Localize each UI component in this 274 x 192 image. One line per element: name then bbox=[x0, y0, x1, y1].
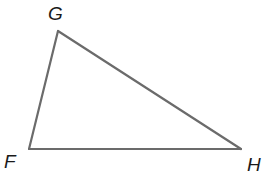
side-hg bbox=[58, 31, 241, 149]
triangle-diagram: G F H bbox=[0, 0, 274, 192]
vertex-label-f: F bbox=[4, 151, 17, 172]
vertex-label-h: H bbox=[247, 154, 261, 175]
side-gf bbox=[29, 31, 58, 149]
vertex-label-g: G bbox=[48, 3, 63, 24]
